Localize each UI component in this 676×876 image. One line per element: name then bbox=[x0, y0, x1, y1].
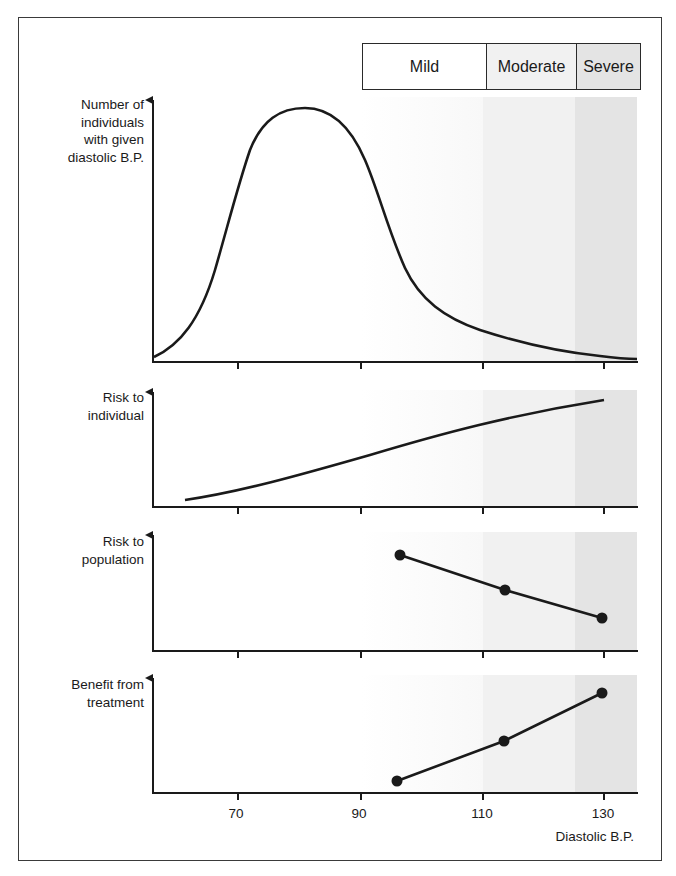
chart-canvas bbox=[0, 0, 676, 876]
xaxis-title: Diastolic B.P. bbox=[555, 829, 634, 844]
xtick-130: 130 bbox=[592, 806, 615, 821]
xtick-90: 90 bbox=[351, 806, 366, 821]
xtick-70: 70 bbox=[228, 806, 243, 821]
xtick-110: 110 bbox=[471, 806, 493, 821]
